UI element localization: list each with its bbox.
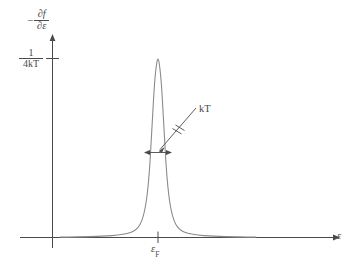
fermi-derivative-curve xyxy=(60,59,256,237)
plot-canvas xyxy=(0,0,351,268)
y-tick-fraction: 1 4kT xyxy=(19,48,43,69)
y-axis-title-denominator: ∂ε xyxy=(35,21,48,32)
y-axis-title-numerator: ∂f xyxy=(36,9,48,20)
y-axis-title: − ∂f ∂ε xyxy=(27,9,49,31)
width-arrow-head-right xyxy=(166,150,172,155)
y-axis-arrowhead xyxy=(50,34,56,41)
kt-leader-path xyxy=(160,108,196,150)
y-axis-title-fraction: ∂f ∂ε xyxy=(34,9,49,31)
y-axis xyxy=(46,34,59,248)
fermi-derivative-figure: − ∂f ∂ε 1 4kT εF ε kT xyxy=(0,0,351,268)
y-tick-numerator: 1 xyxy=(27,48,36,58)
y-tick-denominator: 4kT xyxy=(21,59,41,69)
x-axis-tick-label: εF xyxy=(151,244,159,257)
width-arrow-head-left xyxy=(144,150,150,155)
width-arrow xyxy=(144,150,172,155)
y-axis-title-minus: − xyxy=(27,15,33,26)
y-axis-tick-label: 1 4kT xyxy=(19,48,43,69)
width-annotation-label: kT xyxy=(199,104,211,115)
x-tick-subscript: F xyxy=(155,250,159,259)
x-axis-title: ε xyxy=(337,231,341,242)
